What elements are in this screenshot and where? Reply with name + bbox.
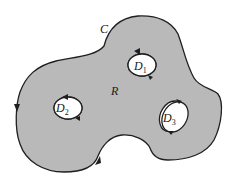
region-r-shape (16, 16, 221, 172)
outer-curve-label: C (100, 22, 109, 36)
region-label: R (110, 84, 119, 98)
region-diagram: C R D1 D2 D3 (0, 0, 233, 184)
